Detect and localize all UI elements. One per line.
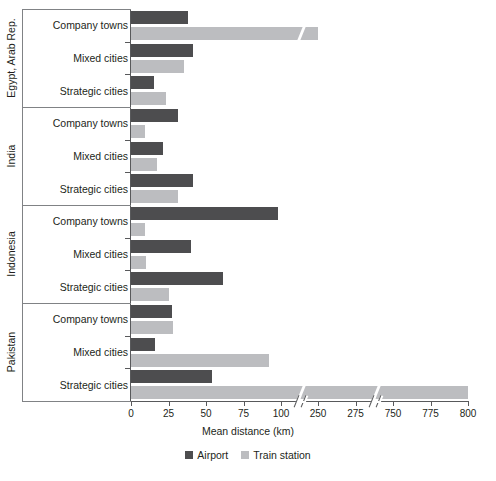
bar-airport bbox=[131, 305, 172, 318]
bar-train-station bbox=[131, 288, 169, 301]
bar-airport bbox=[131, 240, 191, 253]
category-tick bbox=[125, 140, 131, 141]
legend-label: Train station bbox=[253, 449, 310, 461]
bar-airport bbox=[131, 174, 193, 187]
x-tick bbox=[169, 401, 170, 406]
group-separator bbox=[22, 107, 131, 108]
x-tick-label: 0 bbox=[128, 408, 134, 419]
category-label: Strategic cities bbox=[18, 281, 128, 293]
x-tick-label: 275 bbox=[347, 408, 364, 419]
category-label: Strategic cities bbox=[18, 183, 128, 195]
x-tick-label: 750 bbox=[385, 408, 402, 419]
x-tick bbox=[281, 401, 282, 406]
category-label: Strategic cities bbox=[18, 85, 128, 97]
chart-legend: AirportTrain station bbox=[0, 449, 496, 461]
category-tick bbox=[125, 238, 131, 239]
bar-airport bbox=[131, 207, 278, 220]
bar-airport bbox=[131, 142, 163, 155]
bar-train-station bbox=[131, 354, 269, 367]
x-tick-label: 25 bbox=[163, 408, 174, 419]
category-label: Mixed cities bbox=[18, 150, 128, 162]
bar-train-station bbox=[131, 321, 173, 334]
x-tick-label: 75 bbox=[238, 408, 249, 419]
x-tick-label: 250 bbox=[310, 408, 327, 419]
x-tick-label: 100 bbox=[273, 408, 290, 419]
bar-train-station bbox=[131, 190, 178, 203]
bar-train-station bbox=[131, 125, 145, 138]
bar-airport bbox=[131, 11, 188, 24]
bar-airport bbox=[131, 370, 212, 383]
axis-break-gap bbox=[373, 401, 379, 403]
x-tick-label: 800 bbox=[460, 408, 477, 419]
category-label: Company towns bbox=[18, 313, 128, 325]
group-separator bbox=[22, 401, 131, 402]
x-tick bbox=[318, 401, 319, 406]
x-tick bbox=[431, 401, 432, 406]
x-tick bbox=[393, 401, 394, 406]
category-label: Company towns bbox=[18, 19, 128, 31]
x-axis-title: Mean distance (km) bbox=[0, 425, 496, 437]
bar-airport bbox=[131, 109, 178, 122]
category-label: Strategic cities bbox=[18, 379, 128, 391]
bar-airport bbox=[131, 76, 154, 89]
group-separator bbox=[22, 9, 131, 10]
legend-item-0: Airport bbox=[185, 449, 228, 461]
bar-train-station bbox=[131, 60, 184, 73]
x-tick-label: 50 bbox=[200, 408, 211, 419]
group-separator bbox=[22, 205, 131, 206]
bar-chart: Egypt, Arab Rep.Company townsMixed citie… bbox=[0, 0, 496, 481]
x-tick bbox=[244, 401, 245, 406]
bar-train-station bbox=[131, 223, 145, 236]
x-tick bbox=[131, 401, 132, 406]
axis-break-gap bbox=[298, 401, 304, 403]
legend-label: Airport bbox=[197, 449, 228, 461]
bar-train-station bbox=[131, 92, 166, 105]
bar-airport bbox=[131, 44, 193, 57]
bar-airport bbox=[131, 272, 223, 285]
category-label: Mixed cities bbox=[18, 346, 128, 358]
square-light-swatch bbox=[241, 451, 249, 459]
group-separator bbox=[22, 303, 131, 304]
bar-train-station bbox=[131, 27, 318, 40]
x-tick-label: 775 bbox=[422, 408, 439, 419]
bar-train-station bbox=[131, 256, 146, 269]
category-label: Mixed cities bbox=[18, 52, 128, 64]
category-tick bbox=[125, 42, 131, 43]
x-tick bbox=[468, 401, 469, 406]
x-tick bbox=[356, 401, 357, 406]
category-label: Mixed cities bbox=[18, 248, 128, 260]
bar-airport bbox=[131, 338, 155, 351]
x-tick bbox=[206, 401, 207, 406]
category-tick bbox=[125, 336, 131, 337]
category-label: Company towns bbox=[18, 117, 128, 129]
legend-item-1: Train station bbox=[241, 449, 310, 461]
category-label: Company towns bbox=[18, 215, 128, 227]
square-dark-swatch bbox=[185, 451, 193, 459]
bar-train-station bbox=[131, 158, 157, 171]
